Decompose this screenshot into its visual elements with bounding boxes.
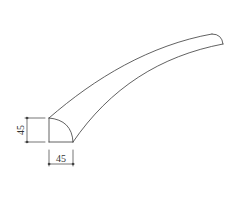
profile-cross-section [49, 118, 73, 142]
diagram-canvas: 45 45 [0, 0, 241, 203]
height-dimension [25, 117, 45, 143]
molding-body [49, 34, 223, 142]
height-dimension-label: 45 [15, 125, 26, 135]
width-dimension-label: 45 [56, 153, 66, 164]
molding-drawing: 45 45 [0, 0, 241, 203]
